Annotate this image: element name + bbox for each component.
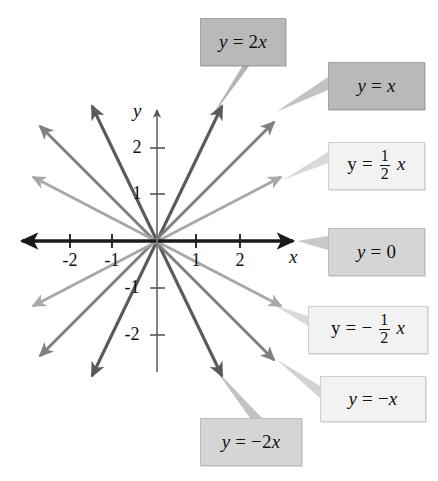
callout-y-equals-minus-x-label: y = −x (348, 388, 397, 410)
callout-y-equals-2x-label: y = 2x (219, 31, 267, 53)
callout-y-equals-half-x[interactable]: y = 1 2 x (328, 142, 425, 190)
x-tick-label-neg1: -1 (98, 250, 126, 271)
callout-y-equals-x[interactable]: y = x (328, 62, 425, 110)
y-axis-label: y (133, 100, 141, 122)
callout-y-equals-x-label: y = x (357, 75, 395, 97)
callout-y-equals-half-x-label: y = 1 2 x (347, 149, 405, 183)
y-tick-label-2: 2 (128, 137, 146, 158)
callout-y-equals-0-label: y = 0 (357, 241, 396, 263)
x-axis-label: x (289, 246, 297, 268)
minus-half-fraction: 1 2 (379, 312, 389, 346)
x-tick-label-1: 1 (187, 250, 205, 271)
x-tick-label-neg2: -2 (56, 250, 84, 271)
callout-y-equals-minus-x[interactable]: y = −x (320, 376, 426, 422)
x-tick-label-2: 2 (231, 250, 249, 271)
leader-ym2x (215, 369, 262, 418)
minus-half-numerator: 1 (379, 312, 389, 328)
callout-y-equals-minus-half-x-label: y = − 1 2 x (331, 313, 405, 347)
minus-half-variable: x (396, 317, 405, 338)
leader-ymhalf (274, 305, 308, 326)
leader-yhalf (283, 152, 328, 180)
leader-ymx (276, 359, 320, 398)
minus-half-denominator: 2 (379, 329, 389, 346)
y-tick-label-neg2: -2 (118, 324, 146, 345)
minus-half-lhs: y = − (331, 317, 372, 338)
y-tick-label-neg1: -1 (118, 277, 146, 298)
callout-y-equals-minus-2x-label: y = −2x (222, 431, 281, 453)
callout-y-equals-minus-2x[interactable]: y = −2x (200, 418, 302, 466)
half-fraction: 1 2 (380, 148, 390, 182)
leader-y2x (210, 65, 250, 119)
half-denominator: 2 (380, 165, 390, 182)
half-lhs: y = (347, 153, 373, 174)
callout-y-equals-2x[interactable]: y = 2x (200, 18, 286, 66)
leader-y0 (297, 236, 328, 250)
y-tick-label-1: 1 (128, 183, 146, 204)
callout-y-equals-minus-half-x[interactable]: y = − 1 2 x (308, 306, 428, 354)
linear-functions-figure: y x -2 -1 1 2 2 1 -1 -2 y = 2x y = x y =… (0, 0, 438, 481)
half-numerator: 1 (380, 148, 390, 164)
leader-yx (276, 77, 328, 112)
callout-y-equals-0[interactable]: y = 0 (328, 228, 425, 276)
half-variable: x (397, 153, 406, 174)
